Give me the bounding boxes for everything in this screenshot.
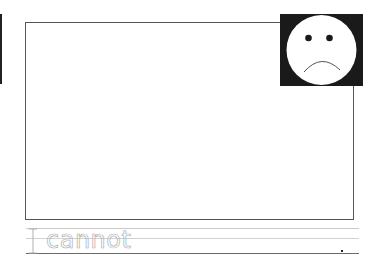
tracing-word: cannot [46,226,131,254]
sad-face-icon [280,14,363,86]
tracing-letter-i [28,228,38,254]
sentence-period [341,250,343,252]
left-margin-bar [0,14,2,84]
emotion-card [280,14,363,86]
